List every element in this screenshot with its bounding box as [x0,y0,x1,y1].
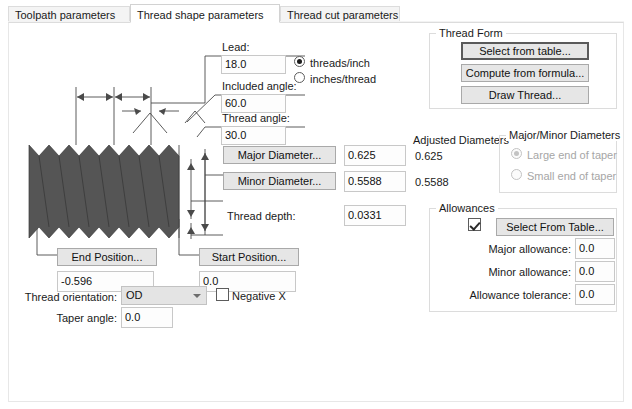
radio-small-end-of-taper[interactable] [511,169,522,180]
major-diameter-button[interactable]: Major Diameter... [223,146,336,164]
thread-form-group-title: Thread Form [436,27,506,39]
major-minor-diameters-group [499,135,617,193]
chevron-down-icon[interactable] [193,294,201,298]
lead-input[interactable]: 18.0 [221,55,286,74]
minor-allowance-input[interactable]: 0.0 [575,261,615,282]
thread-angle-label: Thread angle: [222,112,290,125]
adjusted-minor-diameter-value: 0.5588 [415,176,449,189]
thread-parameters-dialog: Toolpath parameters Thread shape paramet… [0,0,632,409]
thread-orientation-value: OD [126,289,143,301]
major-diameter-input[interactable]: 0.625 [344,145,406,166]
radio-small-end-of-taper-label: Small end of taper [527,170,616,183]
adjusted-diameters-title: Adjusted Diameters [413,134,509,147]
tab-page-thread-shape: Lead: 18.0 threads/inch inches/thread In… [8,22,624,402]
negative-x-checkbox[interactable] [216,288,229,301]
radio-large-end-of-taper-label: Large end of taper [527,149,617,162]
thread-angle-input[interactable]: 30.0 [221,126,286,145]
major-allowance-label: Major allowance: [439,243,571,256]
taper-angle-input[interactable]: 0.0 [121,307,173,328]
draw-thread-button[interactable]: Draw Thread... [461,86,589,104]
allowance-tolerance-label: Allowance tolerance: [429,289,571,302]
radio-inches-per-thread-label: inches/thread [310,73,376,86]
major-minor-diameters-group-title: Major/Minor Diameters [506,129,623,141]
allowances-select-from-table-checkbox[interactable] [468,218,481,231]
minor-diameter-button[interactable]: Minor Diameter... [223,172,336,190]
minor-allowance-label: Minor allowance: [439,266,571,279]
allowances-select-from-table-button[interactable]: Select From Table... [496,218,614,236]
thread-orientation-label: Thread orientation: [21,291,117,304]
compute-from-formula-button[interactable]: Compute from formula... [461,64,589,82]
adjusted-major-diameter-value: 0.625 [415,150,443,163]
thread-depth-label: Thread depth: [227,210,296,223]
thread-orientation-select[interactable]: OD [121,286,207,305]
major-allowance-input[interactable]: 0.0 [575,238,615,259]
lead-label: Lead: [222,41,250,54]
included-angle-label: Included angle: [222,80,297,93]
negative-x-label: Negative X [232,290,286,303]
thread-flank-lines [39,156,169,227]
tab-thread-shape-parameters[interactable]: Thread shape parameters [130,4,280,23]
included-angle-input[interactable]: 60.0 [221,94,286,113]
select-from-table-button[interactable]: Select from table... [461,42,589,60]
tab-toolpath-parameters[interactable]: Toolpath parameters [8,6,130,21]
thread-body [29,145,179,238]
minor-diameter-input[interactable]: 0.5588 [344,171,406,192]
radio-threads-per-inch-label: threads/inch [310,57,370,70]
taper-angle-label: Taper angle: [41,312,117,325]
tab-strip: Toolpath parameters Thread shape paramet… [8,4,624,23]
radio-threads-per-inch[interactable] [294,56,305,67]
tab-thread-cut-parameters[interactable]: Thread cut parameters [280,6,400,21]
radio-large-end-of-taper[interactable] [511,148,522,159]
start-position-button[interactable]: Start Position... [199,248,299,266]
thread-depth-input[interactable]: 0.0331 [344,205,406,226]
start-position-input[interactable]: 0.0 [199,271,296,292]
allowance-tolerance-input[interactable]: 0.0 [575,284,615,305]
end-position-button[interactable]: End Position... [57,248,157,266]
allowances-group-title: Allowances [436,202,498,214]
